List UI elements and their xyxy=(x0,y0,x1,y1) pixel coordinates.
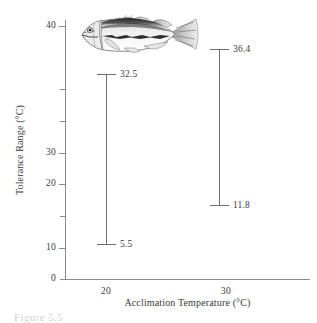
x-tick-label-20: 20 xyxy=(90,286,122,296)
y-tick-35 xyxy=(60,89,65,90)
y-tick-40 xyxy=(59,26,65,27)
y-tick-30 xyxy=(59,153,65,154)
y-axis-title: Tolerance Range (°C) xyxy=(14,40,26,260)
interval-cap-upper-20 xyxy=(97,74,116,75)
interval-value-upper-30: 36.4 xyxy=(233,44,250,54)
figure-caption: Figure 5.5 xyxy=(14,311,63,323)
interval-value-upper-20: 32.5 xyxy=(120,69,137,79)
x-axis-line xyxy=(65,279,310,280)
x-tick-label-30: 30 xyxy=(210,286,242,296)
interval-bar-20 xyxy=(106,74,107,244)
y-tick-25 xyxy=(60,121,65,122)
interval-value-lower-20: 5.5 xyxy=(120,239,132,249)
interval-bar-30 xyxy=(219,49,220,205)
y-tick-10 xyxy=(59,248,65,249)
interval-cap-lower-20 xyxy=(97,244,116,245)
interval-cap-lower-30 xyxy=(210,205,229,206)
interval-cap-upper-30 xyxy=(210,49,229,50)
fish-illustration xyxy=(76,6,200,64)
x-axis-title: Acclimation Temperature (°C) xyxy=(65,297,310,309)
y-tick-15 xyxy=(60,216,65,217)
y-tick-label-40: 40 xyxy=(34,21,56,31)
y-tick-label-10: 10 xyxy=(34,243,56,253)
y-tick-label-20: 20 xyxy=(34,179,56,189)
y-tick-label-0: 0 xyxy=(34,274,56,284)
y-axis-line xyxy=(65,20,66,280)
figure-container: 40 30 20 10 0 20 30 32.5 5.5 36.4 11.8 A… xyxy=(0,0,317,323)
y-tick-label-30: 30 xyxy=(34,148,56,158)
y-tick-20 xyxy=(59,184,65,185)
interval-value-lower-30: 11.8 xyxy=(233,200,250,210)
y-tick-5 xyxy=(60,279,65,280)
